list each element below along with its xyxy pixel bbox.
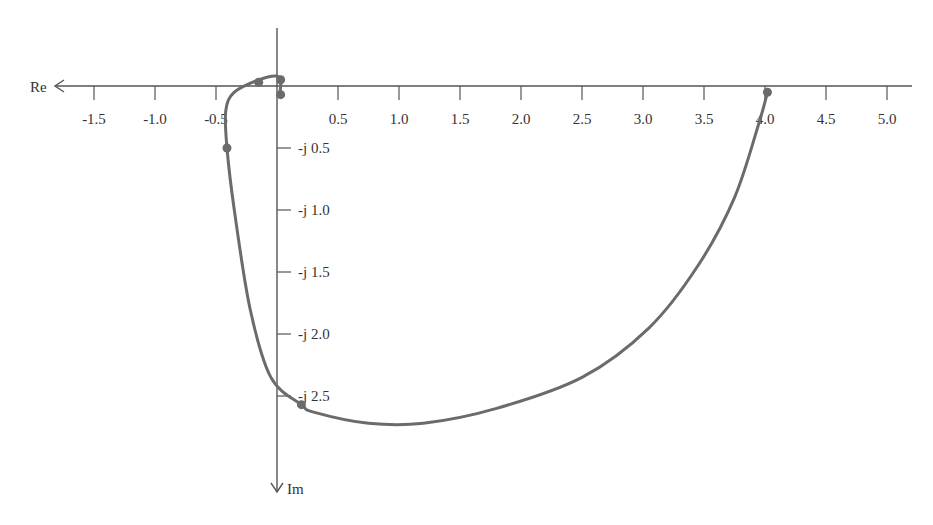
x-tick-label: 1.5 [451,111,470,127]
locus-marker [297,400,306,409]
real-axis-label: Re [30,79,47,95]
locus-curve [225,76,767,425]
x-tick-label: 2.5 [573,111,592,127]
axes: Re Im [30,28,912,497]
locus-marker [276,75,285,84]
x-tick-label: 4.5 [817,111,836,127]
x-tick-label: 5.0 [878,111,897,127]
nyquist-plot: Re Im -1.5-1.0-0.50.51.01.52.02.53.03.54… [0,0,933,525]
y-tick-label: -j 0.5 [298,140,330,156]
x-tick-label: 3.5 [695,111,714,127]
y-tick-label: -j 2.0 [298,326,330,342]
x-ticks: -1.5-1.0-0.50.51.01.52.02.53.03.54.04.55… [82,86,896,127]
y-tick-label: -j 1.0 [298,202,330,218]
locus-marker [254,78,263,87]
x-tick-label: 0.5 [329,111,348,127]
x-tick-label: -1.5 [82,111,106,127]
locus-marker [222,144,231,153]
locus-marker [763,88,772,97]
x-tick-label: 2.0 [512,111,531,127]
imag-axis-label: Im [287,481,304,497]
x-tick-label: -1.0 [143,111,167,127]
x-tick-label: 1.0 [390,111,409,127]
y-ticks: -j 0.5-j 1.0-j 1.5-j 2.0-j 2.5 [277,140,330,404]
series-locus [222,75,771,425]
x-tick-label: 3.0 [634,111,653,127]
y-tick-label: -j 1.5 [298,264,330,280]
locus-marker [276,90,285,99]
